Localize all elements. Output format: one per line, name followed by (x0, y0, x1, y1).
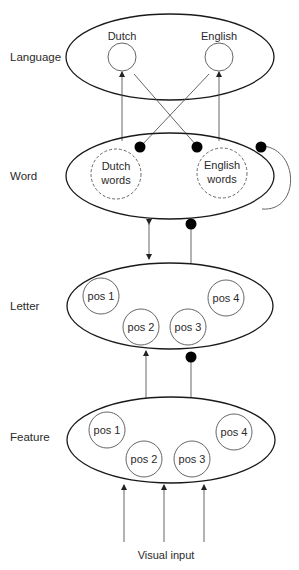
node-label-dutch: Dutch (108, 30, 137, 42)
layer-label-word: Word (10, 170, 37, 182)
feature-label-pos4: pos 4 (221, 426, 248, 438)
layer-label-letter: Letter (10, 300, 40, 312)
node-label-english-words-2: words (206, 173, 237, 185)
node-label-dutch-words-2: words (100, 174, 131, 186)
letter-layer: Letter pos 1 pos 2 pos 3 pos 4 (10, 263, 273, 349)
inhibitory-dot-englishwords (192, 142, 203, 153)
feature-label-pos1: pos 1 (94, 424, 121, 436)
node-english (205, 43, 233, 71)
inhibitory-dot-letter-word (186, 219, 197, 230)
node-label-english-words-1: English (204, 159, 240, 171)
node-label-english: English (201, 30, 237, 42)
feature-label-pos3: pos 3 (179, 453, 206, 465)
letter-label-pos1: pos 1 (88, 290, 115, 302)
layer-label-feature: Feature (10, 431, 50, 443)
inhibitory-dot-dutchwords (135, 142, 146, 153)
language-ellipse (66, 14, 274, 100)
node-dutch (108, 43, 136, 71)
letter-label-pos4: pos 4 (213, 292, 240, 304)
feature-label-pos2: pos 2 (131, 453, 158, 465)
letter-label-pos3: pos 3 (175, 321, 202, 333)
word-self-inhibition-loop (262, 146, 291, 209)
bia-diagram: Language Dutch English Word Dutch words … (0, 0, 299, 570)
layer-label-language: Language (10, 51, 61, 63)
visual-input-label: Visual input (138, 549, 195, 561)
feature-layer: Feature pos 1 pos 2 pos 3 pos 4 (10, 397, 275, 483)
letter-label-pos2: pos 2 (128, 321, 155, 333)
node-label-dutch-words-1: Dutch (102, 160, 131, 172)
language-layer: Language Dutch English (10, 14, 274, 100)
inhibitory-dot-word-self (256, 142, 267, 153)
inhibitory-dot-feature-letter (186, 352, 197, 363)
